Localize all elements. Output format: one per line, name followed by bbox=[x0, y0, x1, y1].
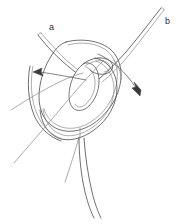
lower-left-tail-line bbox=[65, 137, 79, 182]
strand-b-edge-2 bbox=[102, 10, 164, 82]
tail-strand-right bbox=[84, 138, 101, 218]
label-strand-b: b bbox=[165, 17, 170, 26]
suture-knot-illustration bbox=[0, 0, 181, 224]
strand-a-edge-1 bbox=[38, 35, 82, 77]
strand-b-tip-cap bbox=[161, 8, 164, 10]
tail-strand-left bbox=[79, 138, 94, 218]
left-limb-strand-inner bbox=[31, 66, 62, 139]
strand-a-edge-2 bbox=[41, 33, 84, 75]
label-strand-a: a bbox=[49, 23, 54, 32]
strand-a-tip-cap bbox=[38, 33, 41, 35]
figure-container: a b bbox=[0, 0, 181, 224]
strand-b-edge-1 bbox=[99, 8, 161, 79]
